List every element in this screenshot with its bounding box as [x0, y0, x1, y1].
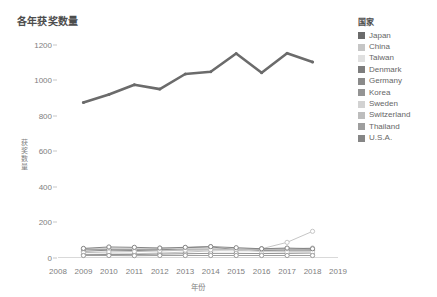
legend-swatch-icon [358, 89, 365, 96]
legend-swatch-icon [358, 55, 365, 62]
chart-screenshot: 各年获奖数量 获奖数量 0200400600800100012002008200… [0, 0, 437, 297]
y-axis-tick-800: 800 [39, 111, 52, 120]
legend-item-label: Taiwan [369, 54, 394, 62]
x-axis-tick-2017: 2017 [278, 267, 296, 276]
legend-item-sweden[interactable]: Sweden [358, 98, 436, 109]
y-axis-tick-200: 200 [39, 218, 52, 227]
legend-item-label: Korea [369, 89, 390, 97]
series-china [81, 229, 314, 256]
x-axis-tick-2018: 2018 [304, 267, 322, 276]
y-axis-tick-400: 400 [39, 182, 52, 191]
x-axis-tick-2013: 2013 [176, 267, 194, 276]
legend: 国家 JapanChinaTaiwanDenmarkGermanyKoreaSw… [358, 16, 436, 144]
y-axis-label: 获奖数量 [20, 139, 29, 171]
legend-title: 国家 [358, 16, 436, 27]
legend-item-germany[interactable]: Germany [358, 76, 436, 87]
legend-item-label: U.S.A. [369, 134, 392, 142]
y-axis-tick-1000: 1000 [34, 76, 52, 85]
legend-item-china[interactable]: China [358, 41, 436, 52]
legend-item-label: Switzerland [369, 111, 410, 119]
legend-item-label: Japan [369, 32, 391, 40]
legend-item-u-s-a-[interactable]: U.S.A. [358, 133, 436, 144]
legend-item-switzerland[interactable]: Switzerland [358, 110, 436, 121]
page-title: 各年获奖数量 [17, 13, 78, 28]
legend-swatch-icon [358, 66, 365, 73]
y-axis-tickmark [53, 258, 57, 259]
legend-item-denmark[interactable]: Denmark [358, 64, 436, 75]
x-axis-tick-2014: 2014 [202, 267, 220, 276]
legend-item-label: Sweden [369, 100, 398, 108]
x-axis-tick-2008: 2008 [49, 267, 67, 276]
x-axis-tick-2019: 2019 [329, 267, 347, 276]
y-axis-tick-1200: 1200 [34, 40, 52, 49]
y-axis-tickmark [53, 80, 57, 81]
series-lines [58, 34, 338, 258]
legend-item-label: China [369, 43, 390, 51]
legend-swatch-icon [358, 135, 365, 142]
x-axis-tick-2010: 2010 [100, 267, 118, 276]
y-axis-tickmark [53, 222, 57, 223]
x-axis-label: 年份 [58, 281, 338, 292]
plot-area: 0200400600800100012002008200920102011201… [58, 34, 338, 258]
legend-item-label: Denmark [369, 66, 401, 74]
legend-item-japan[interactable]: Japan [358, 30, 436, 41]
y-axis-tick-0: 0 [48, 254, 52, 263]
legend-swatch-icon [358, 44, 365, 51]
y-axis-tickmark [53, 115, 57, 116]
legend-swatch-icon [358, 78, 365, 85]
legend-swatch-icon [358, 32, 365, 39]
legend-swatch-icon [358, 101, 365, 108]
x-axis-tick-2009: 2009 [75, 267, 93, 276]
legend-item-korea[interactable]: Korea [358, 87, 436, 98]
y-axis-tick-600: 600 [39, 147, 52, 156]
x-axis-tick-2012: 2012 [151, 267, 169, 276]
legend-swatch-icon [358, 123, 365, 130]
series-japan [82, 52, 314, 104]
legend-swatch-icon [358, 112, 365, 119]
x-axis-tick-2011: 2011 [126, 267, 143, 276]
y-axis-tickmark [53, 186, 57, 187]
y-axis-tickmark [53, 151, 57, 152]
legend-item-label: Thailand [369, 123, 400, 131]
x-axis-tick-2016: 2016 [253, 267, 271, 276]
legend-item-thailand[interactable]: Thailand [358, 121, 436, 132]
x-axis-tick-2015: 2015 [227, 267, 245, 276]
legend-item-taiwan[interactable]: Taiwan [358, 53, 436, 64]
legend-item-label: Germany [369, 77, 402, 85]
y-axis-tickmark [53, 44, 57, 45]
